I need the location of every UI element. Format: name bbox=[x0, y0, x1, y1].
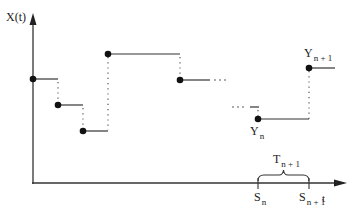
label-s-n: Sn bbox=[254, 191, 266, 203]
label-t-n-plus-1: Tn + 1 bbox=[273, 153, 300, 165]
label-s-n-plus-1: Sn + 1 bbox=[299, 191, 325, 203]
jump-points bbox=[30, 51, 313, 135]
step-process-diagram bbox=[0, 0, 356, 212]
ellipsis-dots bbox=[214, 79, 244, 108]
y-axis-arrow-icon bbox=[30, 13, 37, 25]
holding-time-brace bbox=[258, 170, 309, 189]
x-axis-arrow-icon bbox=[334, 180, 347, 187]
y-axis-label: X(t) bbox=[6, 11, 26, 23]
label-y-n: Yn bbox=[250, 125, 264, 137]
label-y-n-plus-1: Yn + 1 bbox=[304, 47, 332, 59]
step-segments bbox=[33, 54, 335, 131]
